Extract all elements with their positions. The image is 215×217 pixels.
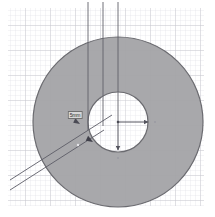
tick-right-of-radius-arrow — [154, 121, 156, 123]
sketch-canvas-root: 5mm — [0, 0, 215, 217]
tick-below-down-arrow — [117, 157, 119, 159]
center-point — [117, 121, 120, 124]
technical-drawing-svg — [0, 0, 215, 217]
tick-on-diagonal — [77, 144, 79, 146]
dimension-label: 5mm — [68, 111, 83, 119]
